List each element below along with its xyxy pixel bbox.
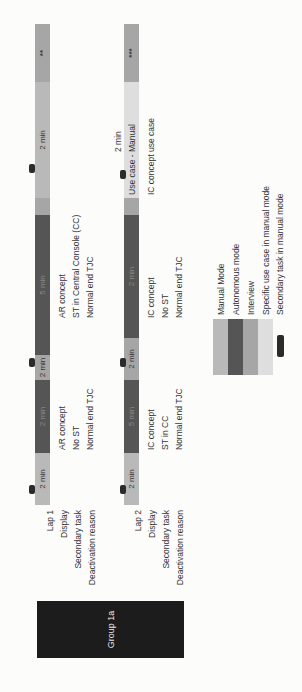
segment-duration: 2 min xyxy=(39,130,47,150)
segment-duration: 2 min xyxy=(128,469,136,489)
segment-duration: 2 min xyxy=(39,469,47,489)
legend-swatch-autonomous xyxy=(228,319,243,375)
legend-swatch-interview xyxy=(243,319,258,375)
segment-duration: 2 min xyxy=(39,407,47,427)
lap2-segment-autonomous: 2 min xyxy=(124,215,139,338)
legend-label-manual: Manual Mode xyxy=(217,263,226,315)
row-label-display-1: Display xyxy=(60,510,69,630)
row-label-lap1: Lap 1 xyxy=(46,510,55,630)
lap1-segment-interview: 2 min xyxy=(35,355,50,380)
lap1-segment-interview: ** xyxy=(35,24,50,82)
row-label-lap2: Lap 2 xyxy=(134,510,143,630)
row-label-deactivation-2: Deactivation reason xyxy=(176,510,185,630)
legend-swatch-use-case xyxy=(258,319,273,375)
lap2-block1-display: IC concept xyxy=(147,409,156,450)
lap1-block2-deactivation: Normal end TJC xyxy=(86,256,95,318)
legend-label-autonomous: Autonomous mode xyxy=(232,244,241,315)
lap1-segment-autonomous: 5 min xyxy=(35,215,50,355)
legend-label-secondary-task: Secondary task in manual mode xyxy=(276,194,285,315)
secondary-task-marker xyxy=(120,170,126,179)
lap1-block1-secondary-task: No ST xyxy=(72,426,81,450)
lap1-segment-interview xyxy=(35,198,50,215)
lap1-segment-autonomous: 2 min xyxy=(35,380,50,453)
lap2-block1-secondary-task: ST in CC xyxy=(161,416,170,450)
segment-duration: 2 min xyxy=(128,267,136,287)
lap2-segment-interview: 2 min xyxy=(124,338,139,380)
legend-swatch-manual xyxy=(213,319,228,375)
study-timeline-figure: Group 1a Lap 1 Display Secondary task De… xyxy=(0,0,302,692)
row-label-secondary-task-1: Secondary task xyxy=(74,510,83,630)
legend-label-interview: Interview xyxy=(247,281,256,315)
use-case-subtitle: IC concept use case xyxy=(147,118,156,195)
use-case-duration: 2 min xyxy=(114,131,123,152)
segment-note: ** xyxy=(39,50,47,56)
lap2-segment-manual: 2 min xyxy=(124,453,139,505)
row-label-deactivation-1: Deactivation reason xyxy=(88,510,97,630)
lap1-block2-secondary-task: ST in Central Console (CC) xyxy=(72,215,81,318)
secondary-task-marker xyxy=(29,485,35,494)
segment-duration: 2 min xyxy=(39,358,47,378)
secondary-task-marker xyxy=(120,358,126,367)
lap1-segment-manual: 2 min xyxy=(35,453,50,505)
row-label-display-2: Display xyxy=(148,510,157,630)
lap2-segment-autonomous: 5 min xyxy=(124,380,139,453)
lap2-segment-interview: *** xyxy=(124,24,139,82)
group-label: Group 1a xyxy=(106,611,116,649)
lap2-segment-interview xyxy=(124,198,139,215)
lap2-block2-secondary-task: No ST xyxy=(161,294,170,318)
lap1-segment-manual: 2 min xyxy=(35,82,50,198)
secondary-task-marker xyxy=(120,485,126,494)
segment-duration: 5 min xyxy=(39,275,47,295)
segment-duration: 5 min xyxy=(128,407,136,427)
secondary-task-marker xyxy=(29,358,35,367)
lap1-block2-display: AR concept xyxy=(58,274,67,318)
lap2-block2-deactivation: Normal end TJC xyxy=(175,256,184,318)
row-label-secondary-task-2: Secondary task xyxy=(162,510,171,630)
lap2-block1-deactivation: Normal end TJC xyxy=(175,388,184,450)
segment-duration: 2 min xyxy=(128,349,136,369)
legend-swatch-secondary-task xyxy=(277,335,284,357)
lap1-block1-display: AR concept xyxy=(58,406,67,450)
use-case-title: Use case - Manual xyxy=(128,124,137,195)
legend-label-use-case: Specific use case in manual mode xyxy=(262,186,271,315)
lap1-block1-deactivation: Normal end TJC xyxy=(86,388,95,450)
segment-note: *** xyxy=(128,48,136,57)
secondary-task-marker xyxy=(29,164,35,173)
lap2-block2-display: IC concept xyxy=(147,277,156,318)
